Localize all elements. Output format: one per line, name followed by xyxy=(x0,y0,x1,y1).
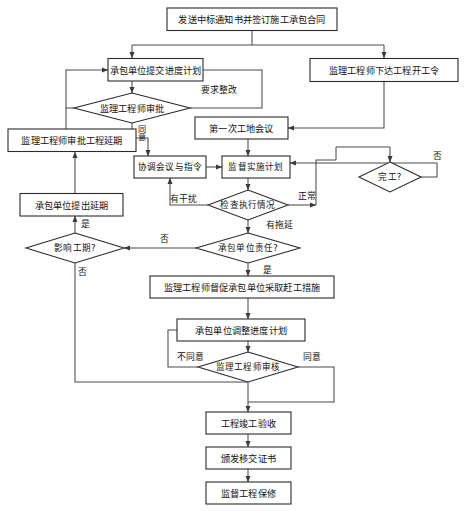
edge-label-yes-responsibility: 是 xyxy=(263,265,272,275)
node-engineer-review-decision[interactable]: 监理工程师审核 xyxy=(198,352,298,382)
node-label: 承包单位提出延期 xyxy=(35,200,109,211)
flowchart-canvas: 发送中标通知书并签订施工承包合同 承包单位提交进度计划 监理工程师下达工程开工令… xyxy=(0,0,464,511)
node-label: 第一次工地会议 xyxy=(209,123,273,134)
flowchart-svg: 发送中标通知书并签订施工承包合同 承包单位提交进度计划 监理工程师下达工程开工令… xyxy=(0,0,464,511)
node-label: 监督实施计划 xyxy=(228,161,283,172)
edge-label-require-rectify: 要求整改 xyxy=(201,84,237,95)
node-label: 监理工程师督促承包单位采取赶工措施 xyxy=(164,282,320,293)
node-label: 承包单位责任? xyxy=(218,242,278,253)
node-label: 承包单位提交进度计划 xyxy=(110,65,202,76)
edge-label-no-responsibility: 否 xyxy=(160,234,169,244)
node-label: 完工? xyxy=(378,171,401,182)
edge-label-agree-review: 同意 xyxy=(303,351,321,362)
edge-n3-n6 xyxy=(288,82,384,128)
node-affects-schedule-decision[interactable]: 影响工期? xyxy=(26,233,124,263)
edge-label-no-affects: 否 xyxy=(78,267,87,277)
node-engineer-approve-extension[interactable]: 监理工程师审批工程延期 xyxy=(8,129,136,152)
node-label: 发送中标通知书并签订施工承包合同 xyxy=(178,14,325,25)
node-send-award-notice[interactable]: 发送中标通知书并签订施工承包合同 xyxy=(167,8,337,31)
edge-label-agree-approval: 同意 xyxy=(136,125,146,141)
node-contractor-request-extension[interactable]: 承包单位提出延期 xyxy=(20,194,123,217)
node-engineer-issue-start-order[interactable]: 监理工程师下达工程开工令 xyxy=(310,59,458,82)
node-supervise-implementation-plan[interactable]: 监督实施计划 xyxy=(222,156,290,178)
edge-label-disagree: 不同意 xyxy=(177,351,204,362)
node-label: 影响工期? xyxy=(54,242,96,253)
node-label: 监理工程师审批 xyxy=(100,103,164,114)
edge-label-not-complete: 否 xyxy=(433,151,442,161)
node-label: 监理工程师审批工程延期 xyxy=(21,135,122,146)
node-check-execution-status[interactable]: 检查执行情况 xyxy=(208,190,288,220)
node-label: 监理工程师下达工程开工令 xyxy=(329,65,439,76)
node-label: 工程竣工验收 xyxy=(221,418,276,429)
edge-label-has-delay: 有拖延 xyxy=(266,219,293,230)
node-engineer-urge-catchup-measures[interactable]: 监理工程师督促承包单位采取赶工措施 xyxy=(150,276,334,298)
node-coordination-meeting-instruction[interactable]: 协调会议与指令 xyxy=(134,156,206,178)
node-contractor-submit-schedule[interactable]: 承包单位提交进度计划 xyxy=(108,59,203,82)
node-label: 颁发移交证书 xyxy=(221,453,276,464)
node-label: 监督工程保修 xyxy=(221,488,276,499)
node-label: 协调会议与指令 xyxy=(138,161,202,172)
node-label: 检查执行情况 xyxy=(220,199,275,210)
node-contractor-responsibility-decision[interactable]: 承包单位责任? xyxy=(196,233,300,263)
node-engineer-approval-decision[interactable]: 监理工程师审批 xyxy=(74,93,190,123)
node-label: 承包单位调整进度计划 xyxy=(195,325,287,336)
node-label: 监理工程师审核 xyxy=(216,361,280,372)
node-contractor-adjust-schedule[interactable]: 承包单位调整进度计划 xyxy=(177,319,305,341)
node-supervise-warranty[interactable]: 监督工程保修 xyxy=(206,482,291,504)
edge-label-interference: 有干扰 xyxy=(170,193,197,204)
edge-normal-riser xyxy=(316,160,336,205)
node-first-site-meeting[interactable]: 第一次工地会议 xyxy=(195,117,288,139)
node-issue-handover-certificate[interactable]: 颁发移交证书 xyxy=(206,447,291,469)
node-completed-decision[interactable]: 完工? xyxy=(359,162,421,192)
edge-label-normal: 正常 xyxy=(298,190,316,201)
node-project-completion-acceptance[interactable]: 工程竣工验收 xyxy=(206,412,291,434)
edge-label-yes-affects: 是 xyxy=(81,219,90,229)
